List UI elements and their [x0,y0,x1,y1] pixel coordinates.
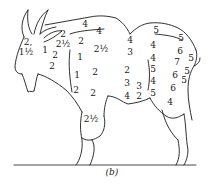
value-label-belly: 4 [124,92,130,101]
value-label-flank: 4 [150,77,156,86]
value-label-flank: 4 [150,41,156,50]
value-label-withers: 2 [60,30,66,39]
value-label-flank: 4 [150,54,156,63]
value-label-shoulder: 2 [78,37,84,46]
value-label-neck: 1 [42,46,48,55]
goat-outline-drawing [0,0,214,185]
value-label-chest: 2 [92,68,98,77]
value-label-belly: 2 [136,92,142,101]
value-label-side: 4 [127,36,133,45]
value-label-side: 3 [127,48,133,57]
value-label-tail: 5 [188,54,194,63]
value-label-haunch: 5 [181,76,187,85]
figure-caption: (b) [106,167,119,177]
value-label-foreleg: 2 [73,86,79,95]
value-label-back: 4 [96,27,102,36]
value-label-hindleg: 4 [167,98,173,107]
value-label-flank: 5 [150,89,156,98]
value-label-neck: 2 [52,51,58,60]
value-label-side: 2 [124,66,130,75]
value-label-back: 4 [82,20,88,29]
value-label-foreleg-lower: 2½ [84,115,98,124]
figure-canvas: 2,1½1222442½22½1122243234325445455675655… [0,0,214,185]
value-label-flank: 5 [150,65,156,74]
value-label-rump: 5 [178,34,184,43]
value-label-head: 2, [24,38,33,47]
value-label-rump: 5 [153,26,159,35]
value-label-neck: 2 [49,62,55,71]
value-label-chest: 2 [90,89,96,98]
value-label-haunch: 6 [172,71,178,80]
value-label-haunch: 6 [177,47,183,56]
value-label-head: 1½ [19,48,33,57]
value-label-haunch: 7 [174,58,180,67]
value-label-thigh: 6 [170,84,176,93]
value-label-shoulder: 1 [77,53,83,62]
value-label-foreleg: 1 [74,71,80,80]
value-label-belly: 3 [136,82,142,91]
value-label-shoulder: 2½ [56,40,70,49]
value-label-shoulder: 2½ [94,45,108,54]
value-label-side: 3 [124,79,130,88]
